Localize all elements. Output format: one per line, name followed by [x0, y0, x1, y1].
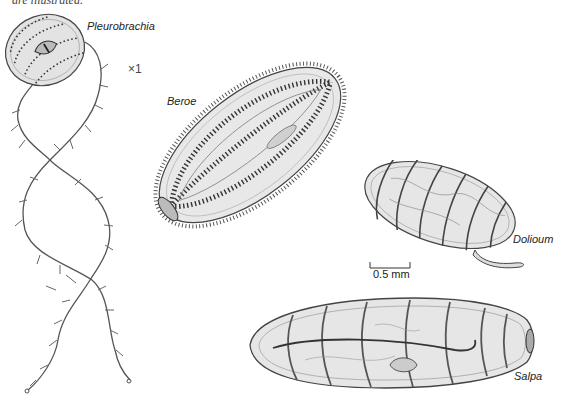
label-salpa: Salpa — [514, 370, 542, 382]
label-pleurobrachia: Pleurobrachia — [87, 20, 155, 32]
salpa-illustration — [245, 290, 540, 395]
salpa-drawing — [245, 290, 540, 395]
beroe-illustration — [140, 50, 360, 240]
pleurobrachia-drawing — [0, 0, 140, 404]
beroe-drawing — [140, 50, 360, 240]
scale-bar — [369, 257, 411, 267]
label-dolioum: Dolioum — [513, 233, 553, 245]
scale-bar-label: 0.5 mm — [373, 268, 410, 280]
pleurobrachia-illustration — [0, 0, 140, 404]
dolioum-drawing — [355, 160, 545, 270]
label-beroe: Beroe — [167, 95, 196, 107]
dolioum-illustration — [355, 160, 545, 270]
